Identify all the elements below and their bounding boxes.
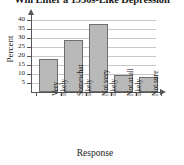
- x-category-label-line: likely: [85, 64, 93, 96]
- y-axis-tick-label: 35: [11, 25, 25, 32]
- y-axis-tick-label: 30: [11, 34, 25, 41]
- y-axis-tick: [27, 83, 32, 84]
- y-axis-tick: [27, 65, 32, 66]
- y-axis-tick: [27, 29, 32, 30]
- y-axis-line: [31, 14, 32, 92]
- gridline: [31, 20, 156, 21]
- x-axis-tick: [36, 92, 37, 96]
- x-category-label: Not at alllikely: [127, 68, 143, 96]
- x-category-label: Somewhatlikely: [77, 64, 93, 96]
- chart-screenshot: Will Enter a 1930s-Like Depression Perce…: [0, 0, 184, 165]
- y-axis-tick-label: 25: [11, 43, 25, 50]
- chart-title: Will Enter a 1930s-Like Depression: [0, 0, 184, 6]
- y-axis-tick: [27, 56, 32, 57]
- y-axis-tick: [27, 74, 32, 75]
- x-axis-title: Response: [31, 148, 159, 158]
- y-axis-tick-label: 15: [11, 61, 25, 68]
- y-axis-tick-label: 10: [11, 70, 25, 77]
- x-category-label-line: likely: [135, 68, 143, 96]
- y-axis-tick-label: 5: [11, 79, 25, 86]
- y-axis-tick: [27, 38, 32, 39]
- y-axis-tick: [27, 20, 32, 21]
- y-axis-tick: [27, 47, 32, 48]
- x-category-label-line: likely: [110, 70, 118, 96]
- y-axis-tick-label: 20: [11, 52, 25, 59]
- x-category-label: Verylikely: [52, 79, 68, 96]
- x-axis-tick: [161, 92, 162, 96]
- x-category-label: Not sure: [152, 70, 160, 96]
- x-category-label: Not verylikely: [102, 70, 118, 96]
- y-axis-tick-label: 40: [11, 16, 25, 23]
- y-axis-arrow-icon: [28, 9, 34, 15]
- x-category-label-line: likely: [60, 79, 68, 96]
- x-category-label-line: Not sure: [151, 70, 160, 96]
